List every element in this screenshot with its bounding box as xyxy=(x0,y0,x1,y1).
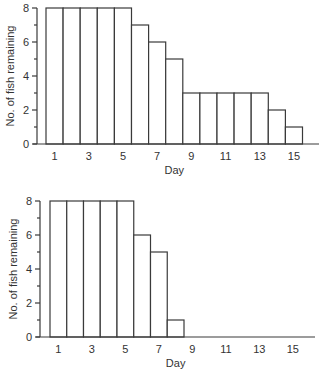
y-tick-label: 2 xyxy=(23,104,29,116)
bar-day-10 xyxy=(200,93,217,144)
x-tick-label: 9 xyxy=(189,343,195,355)
x-tick-label: 15 xyxy=(287,343,299,355)
x-axis-title: Day xyxy=(166,357,186,369)
bar-day-3 xyxy=(80,8,97,144)
bar-day-7 xyxy=(149,42,166,144)
x-axis-title: Day xyxy=(164,164,184,176)
y-axis-title: No. of fish remaining xyxy=(7,219,19,320)
bar-day-4 xyxy=(97,8,114,144)
bar-day-1 xyxy=(50,201,67,337)
x-tick-label: 1 xyxy=(55,343,61,355)
x-tick-label: 3 xyxy=(86,150,92,162)
y-tick-label: 0 xyxy=(23,138,29,150)
y-axis-title: No. of fish remaining xyxy=(4,26,16,127)
y-tick-label: 8 xyxy=(26,195,32,207)
bar-day-8 xyxy=(167,320,184,337)
x-tick-label: 7 xyxy=(154,150,160,162)
y-tick-label: 4 xyxy=(26,263,32,275)
bar-day-5 xyxy=(117,201,134,337)
y-tick-label: 6 xyxy=(23,36,29,48)
x-tick-label: 5 xyxy=(122,343,128,355)
x-tick-label: 9 xyxy=(188,150,194,162)
bar-day-4 xyxy=(100,201,117,337)
y-tick-label: 0 xyxy=(26,331,32,343)
x-tick-label: 5 xyxy=(120,150,126,162)
bar-day-14 xyxy=(268,110,285,144)
bar-day-7 xyxy=(151,252,168,337)
bar-day-1 xyxy=(46,8,63,144)
fish-survival-charts: 0246813579111315DayNo. of fish remaining… xyxy=(0,0,322,381)
x-tick-label: 11 xyxy=(220,150,231,162)
y-tick-label: 8 xyxy=(23,2,29,14)
bar-day-2 xyxy=(63,8,80,144)
bar-day-2 xyxy=(67,201,84,337)
x-tick-label: 3 xyxy=(89,343,95,355)
bar-day-8 xyxy=(166,59,183,144)
bar-day-6 xyxy=(134,235,151,337)
bar-day-9 xyxy=(183,93,200,144)
x-tick-label: 13 xyxy=(254,150,266,162)
x-tick-label: 7 xyxy=(156,343,162,355)
y-tick-label: 2 xyxy=(26,297,32,309)
bar-day-12 xyxy=(234,93,251,144)
chart-top: 0246813579111315DayNo. of fish remaining xyxy=(4,2,319,176)
bar-day-15 xyxy=(285,127,302,144)
bar-day-6 xyxy=(132,25,149,144)
x-tick-label: 11 xyxy=(220,343,231,355)
y-tick-label: 6 xyxy=(26,229,32,241)
y-tick-label: 4 xyxy=(23,70,29,82)
x-tick-label: 13 xyxy=(253,343,265,355)
x-tick-label: 15 xyxy=(288,150,300,162)
bar-day-3 xyxy=(84,201,101,337)
x-tick-label: 1 xyxy=(51,150,57,162)
bar-day-11 xyxy=(217,93,234,144)
chart-bottom: 0246813579111315DayNo. of fish remaining xyxy=(7,195,315,369)
bar-day-5 xyxy=(114,8,131,144)
bar-day-13 xyxy=(251,93,268,144)
